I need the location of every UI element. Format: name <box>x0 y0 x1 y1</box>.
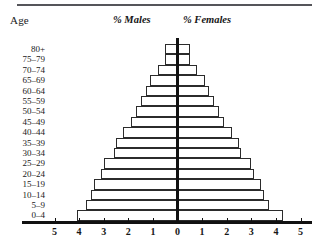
bar-females-55-59 <box>178 96 215 106</box>
x-tick-label: 1 <box>150 226 155 237</box>
bar-females-40-44 <box>178 127 232 137</box>
x-tick-label: 2 <box>126 226 131 237</box>
bar-males-40-44 <box>123 127 177 137</box>
x-tick-mark <box>301 218 302 222</box>
bar-males-35-39 <box>116 138 178 148</box>
x-tick-mark <box>276 218 277 222</box>
pyramid-plot-area: 54321012345 <box>0 0 327 249</box>
x-tick-mark <box>202 218 203 222</box>
x-tick-label: 2 <box>224 226 229 237</box>
x-tick-label: 0 <box>175 226 180 237</box>
bar-females-45-49 <box>178 117 225 127</box>
x-tick-label: 3 <box>249 226 254 237</box>
bar-females-80+ <box>178 44 190 54</box>
bar-males-55-59 <box>141 96 178 106</box>
bar-females-30-34 <box>178 148 242 158</box>
x-tick-mark <box>79 218 80 222</box>
x-axis-line <box>22 221 312 224</box>
bar-males-65-69 <box>150 75 177 85</box>
bar-females-60-64 <box>178 86 210 96</box>
bar-females-65-69 <box>178 75 205 85</box>
bar-females-70-74 <box>178 65 198 75</box>
bar-females-25-29 <box>178 158 252 168</box>
bar-males-70-74 <box>158 65 178 75</box>
bar-males-25-29 <box>104 158 178 168</box>
x-tick-mark <box>104 218 105 222</box>
x-tick-label: 5 <box>52 226 57 237</box>
center-axis-line <box>176 38 179 223</box>
bar-females-35-39 <box>178 138 240 148</box>
bar-females-75-79 <box>178 54 190 64</box>
x-tick-mark <box>153 218 154 222</box>
bar-males-0-4 <box>77 210 178 220</box>
bar-males-20-24 <box>101 169 177 179</box>
bar-males-5-9 <box>86 200 177 210</box>
x-tick-mark <box>178 218 179 222</box>
x-tick-label: 4 <box>273 226 278 237</box>
bar-females-15-19 <box>178 179 262 189</box>
bar-females-10-14 <box>178 190 264 200</box>
bar-males-10-14 <box>91 190 177 200</box>
x-tick-label: 3 <box>101 226 106 237</box>
x-tick-label: 4 <box>77 226 82 237</box>
x-tick-mark <box>251 218 252 222</box>
bar-males-30-34 <box>114 148 178 158</box>
bar-males-60-64 <box>146 86 178 96</box>
bar-males-50-54 <box>136 106 178 116</box>
x-tick-label: 5 <box>298 226 303 237</box>
bar-females-20-24 <box>178 169 254 179</box>
x-tick-mark <box>128 218 129 222</box>
x-tick-mark <box>227 218 228 222</box>
bar-females-50-54 <box>178 106 220 116</box>
bar-females-0-4 <box>178 210 284 220</box>
x-tick-label: 1 <box>200 226 205 237</box>
x-tick-mark <box>55 218 56 222</box>
bar-females-5-9 <box>178 200 269 210</box>
population-pyramid-figure: Age % Males % Females 80+75–7970–7465–69… <box>0 0 327 249</box>
bar-males-15-19 <box>94 179 178 189</box>
bar-males-45-49 <box>131 117 178 127</box>
